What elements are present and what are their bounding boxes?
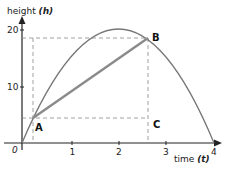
y-tick-10: 10 [7, 82, 19, 92]
x-tick-1: 1 [70, 147, 76, 157]
x-tick-4: 4 [211, 147, 217, 157]
point-c-label: C [153, 119, 160, 130]
x-axis-arrow-icon [214, 140, 222, 147]
chart: 0 1 2 3 4 20 10 height (h) time (t) A B … [0, 0, 225, 170]
x-tick-3: 3 [163, 147, 169, 157]
y-axis-arrow-icon [19, 16, 26, 24]
chord-ab [33, 38, 148, 118]
point-a-label: A [35, 122, 43, 133]
y-tick-20: 20 [7, 25, 19, 35]
y-axis-label: height (h) [7, 6, 53, 16]
parabola-curve [22, 29, 214, 143]
point-b-label: B [152, 32, 160, 43]
x-axis-label: time (t) [174, 154, 210, 164]
origin-label: 0 [12, 145, 18, 155]
x-tick-2: 2 [116, 147, 122, 157]
